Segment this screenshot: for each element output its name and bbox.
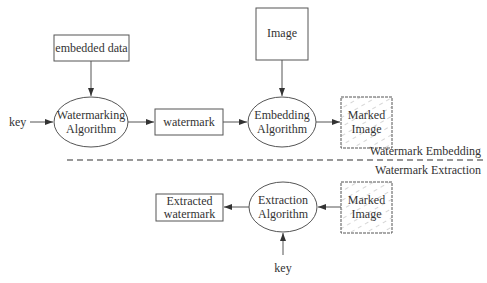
extraction-label-line1: Extraction [258,193,308,207]
embedding-label-line1: Embedding [254,108,309,122]
watermarking-label-line1: Watermarking [57,108,125,122]
extraction-section-label: Watermark Extraction [375,163,481,177]
embedded-data-label: embedded data [55,41,128,55]
marked-image-bottom-line1: Marked [348,193,385,207]
extraction-algorithm-ellipse: Extraction Algorithm [249,182,317,232]
marked-image-box-bottom: Marked Image [341,182,392,233]
extracted-label-line2: watermark [164,207,215,221]
marked-image-top-line2: Image [352,122,382,136]
embedded-data-box: embedded data [54,35,129,61]
embedding-label-line2: Algorithm [257,122,308,136]
marked-image-top-line1: Marked [348,108,385,122]
extracted-watermark-box: Extracted watermark [156,194,223,221]
embedding-algorithm-ellipse: Embedding Algorithm [248,97,316,147]
watermark-label: watermark [163,115,214,129]
extracted-label-line1: Extracted [167,194,213,208]
image-label: Image [267,26,297,40]
embedding-section-label: Watermark Embedding [370,144,481,158]
marked-image-bottom-line2: Image [352,207,382,221]
watermarking-label-line2: Algorithm [66,122,117,136]
extraction-label-line2: Algorithm [258,207,309,221]
key-label-top: key [9,115,26,129]
watermarking-algorithm-ellipse: Watermarking Algorithm [54,97,128,147]
watermark-flow-diagram: embedded data key Watermarking Algorithm… [0,0,487,283]
image-box: Image [256,8,308,60]
marked-image-box-top: Marked Image [341,97,392,148]
watermark-box: watermark [155,109,223,135]
key-label-bottom: key [274,261,291,275]
